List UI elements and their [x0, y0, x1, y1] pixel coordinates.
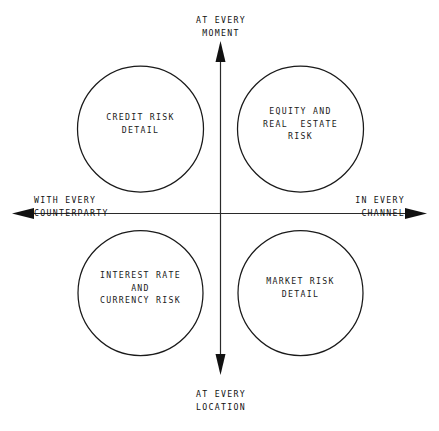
- label-interest-rate-and-currency-risk: INTEREST RATE AND CURRENCY RISK: [70, 269, 211, 307]
- arrow-up-icon: [216, 41, 226, 62]
- quadrant-diagram: CREDIT RISK DETAIL EQUITY AND REAL ESTAT…: [0, 0, 439, 431]
- axis-label-at-every-location: AT EVERY LOCATION: [160, 388, 282, 413]
- axis-label-at-every-moment: AT EVERY MOMENT: [160, 14, 282, 39]
- label-equity-and-real-estate-risk: EQUITY AND REAL ESTATE RISK: [230, 105, 371, 143]
- arrow-right-icon: [405, 208, 427, 219]
- arrow-down-icon: [216, 354, 226, 375]
- arrow-left-icon: [12, 208, 34, 219]
- label-credit-risk-detail: CREDIT RISK DETAIL: [70, 111, 211, 136]
- axis-label-in-every-channel: IN EVERY CHANNEL: [243, 194, 405, 219]
- label-market-risk-detail: MARKET RISK DETAIL: [230, 275, 371, 300]
- axis-label-with-every-counterparty: WITH EVERY COUNTERPARTY: [34, 194, 204, 219]
